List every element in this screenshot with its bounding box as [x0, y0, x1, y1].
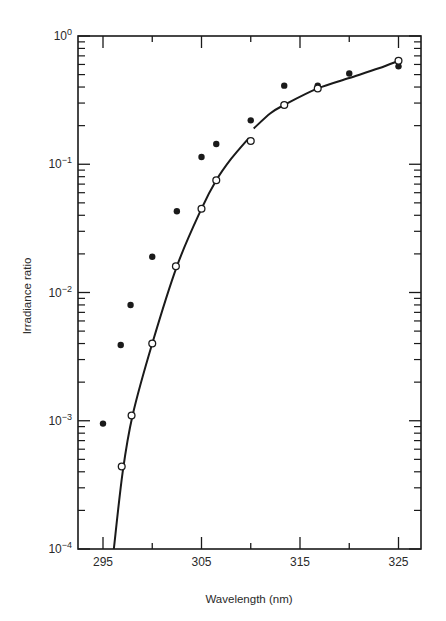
filled-data-point: [198, 154, 204, 160]
y-axis-label: Irradiance ratio: [21, 258, 33, 335]
y-tick-label: 100: [54, 27, 72, 43]
open-data-point: [149, 340, 156, 347]
x-tick-label: 315: [290, 555, 310, 569]
filled-circle-series: [100, 63, 402, 427]
axis-ticks: [78, 36, 421, 549]
open-data-point: [198, 205, 205, 212]
open-data-point: [395, 57, 402, 64]
chart: 295305315325 10010−110−210−310−4 Wavelen…: [0, 0, 446, 621]
open-circle-series: [118, 57, 402, 469]
filled-data-point: [174, 208, 180, 214]
filled-data-point: [149, 254, 155, 260]
filled-data-point: [213, 141, 219, 147]
y-tick-label: 10−4: [48, 540, 72, 556]
y-tick-label: 10−1: [48, 155, 72, 171]
filled-data-point: [248, 117, 254, 123]
plot-frame: [78, 36, 421, 549]
y-tick-labels: 10010−110−210−310−4: [48, 27, 72, 556]
open-data-point: [314, 85, 321, 92]
open-data-point: [128, 412, 135, 419]
open-data-point: [281, 102, 288, 109]
plot-border: [78, 36, 421, 549]
filled-data-point: [281, 82, 287, 88]
filled-data-point: [100, 420, 106, 426]
curve-segment: [114, 138, 249, 549]
curve-segment: [254, 61, 399, 129]
x-tick-labels: 295305315325: [93, 555, 409, 569]
fitted-curve: [114, 61, 399, 549]
filled-data-point: [346, 70, 352, 76]
y-tick-label: 10−3: [48, 412, 72, 428]
x-axis-label: Wavelength (nm): [205, 593, 292, 605]
x-tick-label: 325: [388, 555, 408, 569]
open-data-point: [118, 463, 125, 470]
open-data-point: [247, 138, 254, 145]
y-tick-label: 10−2: [48, 284, 72, 300]
x-tick-label: 305: [191, 555, 211, 569]
x-tick-label: 295: [93, 555, 113, 569]
open-data-point: [172, 263, 179, 270]
filled-data-point: [118, 342, 124, 348]
open-data-point: [213, 177, 220, 184]
filled-data-point: [127, 302, 133, 308]
